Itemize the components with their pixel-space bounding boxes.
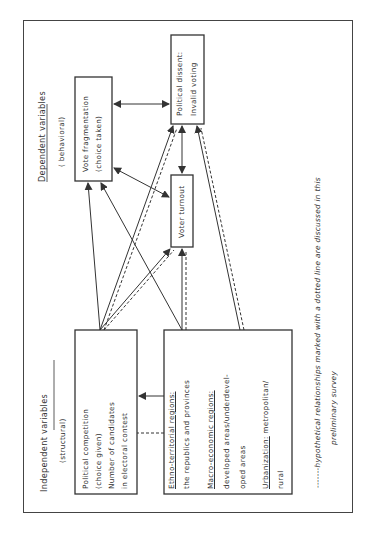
dependent-subtitle: ( behavioral) (58, 117, 65, 167)
footnote-line1: -------hypothetical relationships marked… (314, 177, 321, 488)
political-dissent-line1: Political dissent: (176, 52, 183, 116)
urban-line: Urbanization: metropolitan/ (262, 380, 269, 489)
urban-value-2: rural (277, 470, 284, 489)
ethno-value: the republics and provinces (183, 380, 190, 489)
vote-fragmentation-line1: Vote fragmentation (82, 96, 89, 172)
vote-fragmentation-line2: (choice taken) (95, 116, 102, 172)
political-dissent-line2: Invalid voting (190, 62, 197, 116)
independent-title: Independent variables (40, 394, 48, 492)
footnote-line2: preliminary survey (330, 371, 337, 445)
macro-label: Macro-economic regions: (207, 390, 214, 489)
ethno-label: Ethno-territorial regions: (168, 391, 175, 489)
urban-label: Urbanization: (261, 436, 270, 489)
political-competition-line1: Political competition (82, 409, 89, 489)
macro-value-2: oped areas (239, 445, 246, 489)
political-competition-line3: Number of candidates (108, 402, 115, 489)
political-competition-line4: in electoral contest (121, 413, 128, 489)
political-competition-line2: (choice given) (95, 433, 102, 489)
voter-turnout-label: Voter turnout (178, 186, 185, 238)
independent-subtitle: (structural) (59, 418, 66, 463)
macro-value-1: developed areas/underdevel- (223, 374, 230, 489)
urban-value-1: metropolitan/ (261, 380, 270, 436)
dependent-title: Dependent variables (38, 91, 46, 182)
